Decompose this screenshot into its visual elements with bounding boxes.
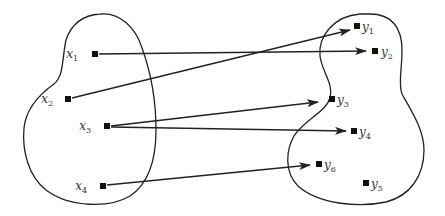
label-y4: y4 [358,125,371,141]
label-x3: x3 [79,119,91,135]
arrow-x1-to-y2 [99,51,366,54]
point-marker-y2 [372,48,378,54]
arrow-x3-to-y4 [111,127,346,131]
diagram-canvas: x1x2x3x4y1y2y3y4y6y5 [0,0,445,216]
point-marker-x2 [65,96,71,102]
label-y6: y6 [323,158,336,174]
codomain-set-boundary [288,14,424,205]
point-marker-y5 [363,180,369,186]
point-marker-x1 [92,51,98,57]
point-marker-y4 [351,128,357,134]
label-y3: y3 [336,93,349,109]
domain-set-boundary [24,14,156,205]
label-x4: x4 [75,179,87,195]
point-marker-y6 [316,161,322,167]
label-y2: y2 [380,45,393,61]
arrow-x4-to-y6 [107,165,310,185]
point-marker-x3 [104,123,110,129]
label-y5: y5 [370,177,383,193]
point-marker-y1 [354,23,360,29]
label-y1: y1 [361,20,374,36]
label-x2: x2 [41,92,53,108]
arrow-x2-to-y1 [72,30,350,98]
arrow-x3-to-y3 [111,102,318,126]
label-x1: x1 [66,47,78,63]
point-marker-x4 [100,183,106,189]
point-marker-y3 [329,96,335,102]
set-mapping-diagram: x1x2x3x4y1y2y3y4y6y5 [0,0,445,216]
set-elements: x1x2x3x4y1y2y3y4y6y5 [41,20,393,195]
